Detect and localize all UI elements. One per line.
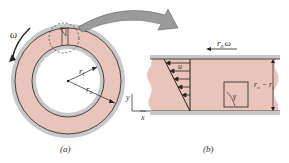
panel-a bbox=[9, 23, 146, 138]
zoom-arrow-icon bbox=[78, 9, 178, 32]
caption-a: (a) bbox=[60, 144, 71, 154]
u-label: u bbox=[178, 62, 182, 71]
y-axis-label: y bbox=[125, 93, 130, 102]
gap-label: ro − ri bbox=[254, 80, 274, 90]
diagram-canvas: ω ri ro y (a) roω u γ ro − ri x (b) bbox=[0, 0, 289, 163]
omega-label: ω bbox=[10, 29, 17, 40]
top-plate bbox=[150, 55, 280, 59]
plate-velocity-label: roω bbox=[217, 38, 231, 49]
caption-b: (b) bbox=[203, 144, 214, 154]
x-axis-label: x bbox=[140, 113, 145, 122]
bottom-plate bbox=[150, 111, 280, 115]
